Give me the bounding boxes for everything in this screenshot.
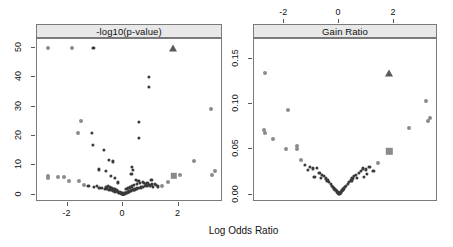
data-point — [77, 179, 81, 183]
data-point — [428, 116, 432, 120]
y-tick-label: 0 — [13, 191, 23, 196]
data-point — [284, 147, 288, 151]
data-point — [46, 46, 50, 50]
y-tick — [248, 58, 252, 59]
x-tick — [67, 202, 68, 206]
data-point — [62, 175, 66, 179]
data-point — [210, 173, 214, 177]
data-point — [107, 158, 110, 161]
data-point — [82, 183, 86, 187]
data-point — [306, 169, 309, 172]
data-point — [104, 169, 107, 172]
panel-strip-label-pvalue: -log10(p-value) — [96, 26, 161, 37]
panel-strip-label-gain: Gain Ratio — [322, 26, 368, 37]
y-tick-label: 0.00 — [230, 185, 240, 203]
data-point — [263, 131, 267, 135]
data-point — [271, 137, 275, 141]
y-tick-label: 30 — [13, 101, 23, 111]
data-point — [286, 108, 290, 112]
data-point — [356, 176, 359, 179]
x-tick-label: 2 — [175, 208, 180, 218]
y-tick-label: 40 — [13, 71, 23, 81]
data-point — [192, 159, 196, 163]
panel-strip-pvalue: -log10(p-value) — [36, 24, 222, 38]
highlight-square-marker — [386, 148, 392, 154]
y-tick — [31, 194, 35, 195]
data-point — [130, 172, 133, 175]
highlight-triangle-marker — [385, 69, 393, 76]
x-tick — [122, 202, 123, 206]
data-point — [156, 185, 159, 188]
data-point — [368, 165, 371, 168]
x-tick — [393, 19, 394, 23]
data-point — [295, 147, 299, 151]
y-tick — [248, 148, 252, 149]
y-tick-label: 10 — [13, 159, 23, 169]
y-tick-label: 0.10 — [230, 94, 240, 112]
data-point — [109, 174, 112, 177]
data-point — [426, 119, 430, 123]
x-tick — [338, 19, 339, 23]
data-point — [150, 178, 153, 181]
data-point — [92, 46, 95, 49]
y-tick — [31, 106, 35, 107]
panel-strip-gain: Gain Ratio — [253, 24, 437, 38]
data-point — [319, 176, 322, 179]
y-tick — [31, 47, 35, 48]
data-point — [116, 181, 119, 184]
data-point — [166, 180, 170, 184]
data-point — [79, 119, 83, 123]
x-tick-label: 0 — [336, 7, 341, 17]
x-tick-label: 0 — [120, 208, 125, 218]
x-tick-label: -2 — [63, 208, 71, 218]
data-point — [424, 99, 428, 103]
data-point — [147, 75, 150, 78]
data-point — [303, 163, 306, 166]
data-point — [97, 168, 100, 171]
data-point — [113, 177, 116, 180]
data-point — [147, 85, 150, 88]
y-tick-label: 0.05 — [230, 140, 240, 158]
data-point — [102, 148, 105, 151]
data-point — [311, 167, 314, 170]
data-point — [56, 175, 60, 179]
data-point — [372, 170, 375, 173]
data-point — [138, 120, 141, 123]
data-point — [350, 180, 353, 183]
panel-pvalue — [36, 38, 222, 201]
data-point — [151, 185, 154, 188]
y-tick-label: 50 — [13, 42, 23, 52]
figure-root: -log10(p-value) 01020304050 -202 Gain Ra… — [0, 0, 453, 247]
data-point — [137, 137, 140, 140]
panel-gain — [253, 38, 437, 201]
data-point — [360, 170, 363, 173]
x-tick — [178, 202, 179, 206]
y-tick — [31, 76, 35, 77]
y-tick-label: 20 — [13, 130, 23, 140]
plot-area-gain — [254, 39, 436, 200]
x-axis-title: Log Odds Ratio — [209, 225, 279, 236]
highlight-square-marker — [170, 172, 176, 178]
data-point — [160, 184, 164, 188]
highlight-triangle-marker — [169, 44, 177, 51]
y-tick-label: 0.15 — [230, 49, 240, 67]
plot-area-pvalue — [37, 39, 221, 200]
data-point — [87, 184, 90, 187]
data-point — [178, 173, 182, 177]
data-point — [209, 107, 213, 111]
y-tick — [31, 135, 35, 136]
data-point — [67, 179, 71, 183]
data-point — [366, 172, 369, 175]
data-point — [316, 166, 319, 169]
data-point — [111, 160, 114, 163]
x-tick-label: 2 — [391, 7, 396, 17]
y-tick — [248, 103, 252, 104]
y-tick — [248, 194, 252, 195]
y-tick — [31, 164, 35, 165]
data-point — [90, 131, 93, 134]
data-point — [376, 161, 380, 165]
data-point — [70, 46, 74, 50]
data-point — [362, 175, 365, 178]
data-point — [46, 176, 50, 180]
data-point — [364, 168, 367, 171]
